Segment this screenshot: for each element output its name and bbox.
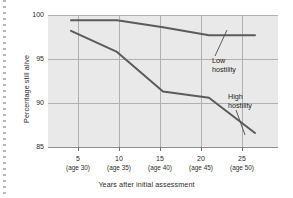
annotation-low-hostility: Low hostility [212,57,236,74]
y-tick-label-90: 90 [22,99,44,106]
x-tick-sublabel-age-50: (age 50) [212,163,272,172]
x-axis-title: Years after initial assessment [0,180,293,189]
x-tick-group-25: 25 (age 50) [212,154,272,172]
chart-figure: Percentage still alive Years after initi… [0,0,293,198]
annotation-low-hostility-line2: hostility [212,66,236,75]
y-tick-label-100: 100 [22,11,44,18]
y-axis-title: Percentage still alive [22,55,31,123]
annotation-high-hostility-line2: hostility [228,102,252,111]
y-tick-label-95: 95 [22,55,44,62]
x-tick-label-25: 25 [212,154,272,163]
y-tick-label-85: 85 [22,143,44,150]
annotation-high-hostility: High hostility [228,93,252,110]
